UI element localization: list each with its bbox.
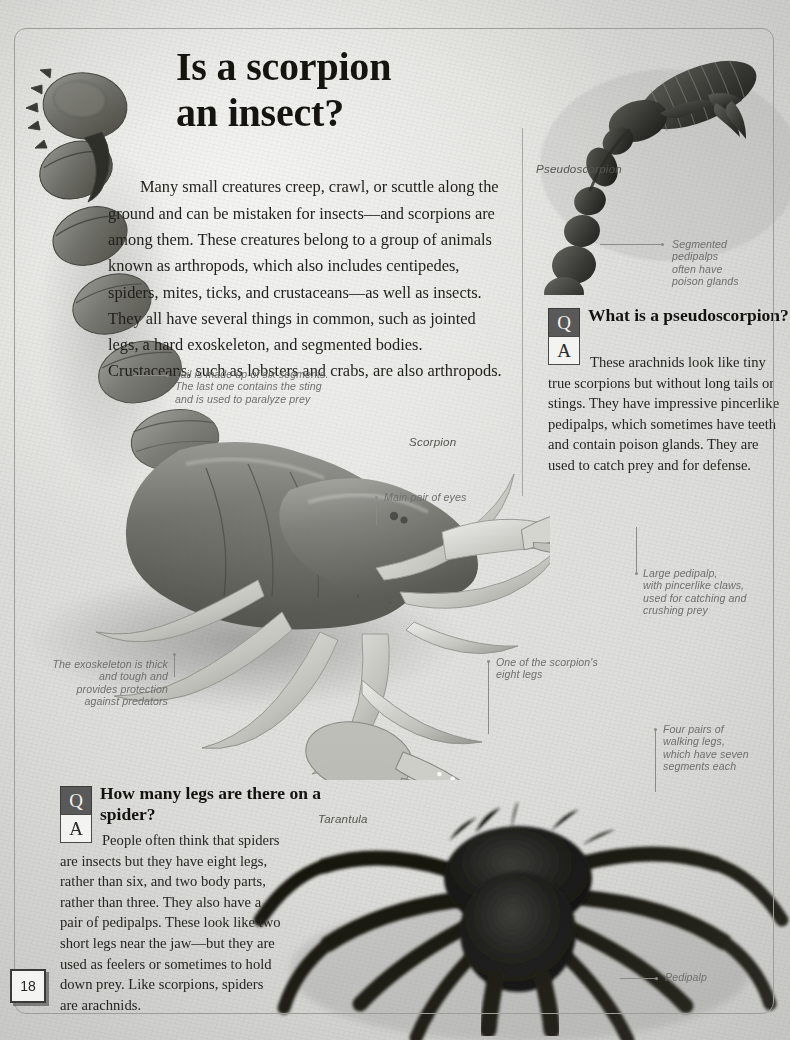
leader-dot [173, 653, 176, 656]
column-divider [522, 128, 523, 496]
specimen-label-scorpion: Scorpion [409, 435, 456, 448]
question-marker: Q [60, 786, 92, 815]
leader-dot [661, 243, 664, 246]
leader-dot [635, 572, 638, 575]
title-line-1: Is a scorpion [176, 44, 506, 90]
leader-dot [166, 374, 169, 377]
caption-exoskeleton: The exoskeleton is thick and tough and p… [40, 658, 168, 708]
caption-four-pairs: Four pairs of walking legs, which have s… [663, 723, 783, 773]
qa-answer: These arachnids look like tiny true scor… [548, 352, 780, 476]
intro-paragraph: Many small creatures creep, crawl, or sc… [108, 174, 508, 384]
leader-line [655, 730, 656, 792]
qa-answer-text: People often think that spiders are inse… [60, 830, 282, 1015]
leader-line [620, 978, 656, 979]
leader-dot [487, 660, 490, 663]
caption-large-pedipalp: Large pedipalp, with pincerlike claws, u… [643, 567, 783, 617]
caption-pedipalp: Pedipalp [665, 971, 775, 983]
qa-question: What is a pseudoscorpion? [588, 305, 790, 326]
leader-line [600, 244, 662, 245]
leader-line [174, 655, 175, 677]
qa-answer-text: These arachnids look like tiny true scor… [548, 352, 780, 476]
leader-dot [375, 496, 378, 499]
specimen-label-pseudoscorpion: Pseudoscorpion [536, 162, 622, 175]
encyclopedia-page: Is a scorpion an insect? Many small crea… [0, 0, 790, 1040]
caption-segmented-pedipalps: Segmented pedipalps often have poison gl… [672, 238, 782, 288]
leader-line [376, 499, 377, 525]
leader-line [488, 662, 489, 734]
specimen-label-tarantula: Tarantula [318, 812, 368, 825]
qa-question: How many legs are there on a spider? [100, 783, 322, 825]
leader-dot [655, 977, 658, 980]
title-line-2: an insect? [176, 90, 506, 136]
leader-dot [654, 728, 657, 731]
caption-tail: Tail is made up of six segments. The las… [175, 368, 375, 405]
question-marker: Q [548, 308, 580, 337]
page-number: 18 [10, 969, 46, 1003]
page-title: Is a scorpion an insect? [176, 44, 506, 136]
leader-line [133, 375, 167, 376]
leader-line [636, 527, 637, 575]
qa-answer: People often think that spiders are inse… [60, 830, 282, 1015]
caption-eyes: Main pair of eyes [384, 491, 534, 503]
caption-one-leg: One of the scorpion's eight legs [496, 656, 646, 681]
